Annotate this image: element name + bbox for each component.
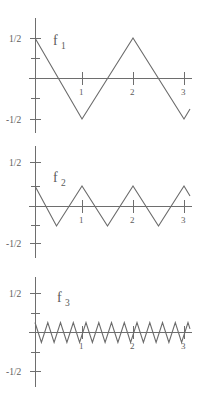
f1-x-label-2: 2 xyxy=(130,87,135,97)
figure-svg: 1/2 -1/2 1 2 3 f 1 1/2 -1/2 1 2 3 xyxy=(0,0,199,397)
f1-y-label-bottom: -1/2 xyxy=(6,115,22,125)
f3-x-label-3: 3 xyxy=(181,341,186,351)
f2-y-label-bottom: -1/2 xyxy=(6,239,22,249)
f2-x-label-1: 1 xyxy=(79,215,84,225)
f3-function-label: f xyxy=(57,290,62,305)
f3-function-subscript: 3 xyxy=(65,298,70,308)
f2-function-subscript: 2 xyxy=(61,178,66,188)
f1-y-label-top: 1/2 xyxy=(9,34,21,44)
f2-function-label: f xyxy=(53,170,58,185)
panel-f3: 1/2 -1/2 1 2 3 f 3 xyxy=(6,277,192,387)
panel-f1: 1/2 -1/2 1 2 3 f 1 xyxy=(6,18,192,133)
f2-x-label-2: 2 xyxy=(130,215,135,225)
f2-y-label-top: 1/2 xyxy=(9,158,21,168)
f1-function-subscript: 1 xyxy=(61,41,66,51)
f2-x-label-3: 3 xyxy=(181,215,186,225)
f3-y-label-top: 1/2 xyxy=(9,289,21,299)
panel-f2: 1/2 -1/2 1 2 3 f 2 xyxy=(6,146,192,258)
triangle-wave-figure: 1/2 -1/2 1 2 3 f 1 1/2 -1/2 1 2 3 xyxy=(0,0,199,397)
f3-y-label-bottom: -1/2 xyxy=(6,367,22,377)
f1-x-label-1: 1 xyxy=(79,87,84,97)
f3-x-label-1: 1 xyxy=(79,341,84,351)
f3-x-label-2: 2 xyxy=(130,341,135,351)
f1-function-label: f xyxy=(53,33,58,48)
f1-x-label-3: 3 xyxy=(181,87,186,97)
